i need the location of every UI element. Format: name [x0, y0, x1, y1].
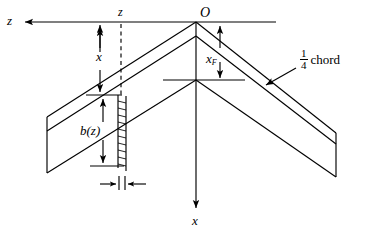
- quarter-chord-leader: [266, 68, 296, 85]
- x-axis-label: x: [192, 214, 198, 227]
- x-dimension-label: x: [96, 50, 102, 63]
- fraction-numerator: 1: [300, 48, 308, 59]
- x-dimension: [86, 28, 122, 95]
- figure-canvas: z z x b(z) O xF x 1 4 chord: [0, 0, 370, 239]
- strip-element: [118, 95, 126, 171]
- quarter-chord-label: 1 4 chord: [300, 48, 340, 72]
- origin-label: O: [200, 6, 210, 20]
- one-quarter-fraction: 1 4: [300, 48, 308, 72]
- local-chord-label: b(z): [80, 124, 100, 137]
- wing-planform-drawing: [0, 0, 370, 239]
- left-wing-outline: [47, 22, 196, 173]
- right-wing-outline: [196, 22, 336, 177]
- fraction-denominator: 4: [300, 59, 308, 71]
- strip-width-dimension: [100, 176, 146, 190]
- xF-label: xF: [206, 52, 217, 67]
- z-dimension-label: z: [118, 6, 123, 18]
- z-axis-label: z: [7, 14, 12, 27]
- xF-subscript: F: [212, 58, 217, 67]
- chord-word: chord: [311, 53, 341, 66]
